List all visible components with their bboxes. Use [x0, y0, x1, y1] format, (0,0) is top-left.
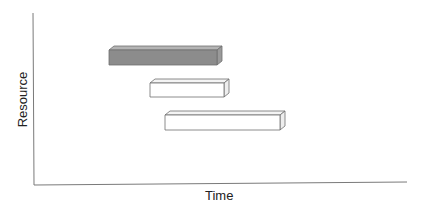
y-axis [33, 13, 34, 185]
x-axis-label: Time [205, 188, 233, 203]
bar-top-face [109, 46, 222, 50]
bar-front-face [109, 50, 217, 65]
x-axis [34, 182, 407, 185]
gantt-bar-3 [165, 111, 285, 130]
y-axis-label: Resource [15, 70, 30, 130]
axes [33, 13, 407, 185]
bar-front-face [150, 83, 224, 97]
gantt-bar-2 [150, 79, 229, 97]
bar-top-face [150, 79, 229, 83]
gantt-bar-1 [109, 46, 222, 65]
bars [109, 46, 285, 130]
bar-front-face [165, 115, 280, 130]
bar-top-face [165, 111, 285, 115]
gantt-chart [0, 0, 422, 213]
